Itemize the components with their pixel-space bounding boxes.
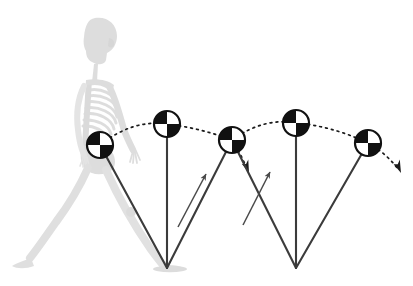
velocity-vector-2 <box>243 172 270 225</box>
com-marker-4 <box>283 110 309 136</box>
ground-shadow-1 <box>153 266 187 272</box>
com-marker-5 <box>355 130 381 156</box>
com-marker-1 <box>87 132 113 158</box>
gait-diagram-canvas <box>0 0 413 286</box>
com-marker-3-quadrant-ul <box>219 127 232 140</box>
front-leg <box>106 170 165 267</box>
com-marker-4-quadrant-lr <box>296 123 309 136</box>
com-marker-5-quadrant-lr <box>368 143 381 156</box>
pendulum-leg-3 <box>167 140 232 268</box>
rear-leg <box>30 168 88 258</box>
com-marker-1-quadrant-ul <box>87 132 100 145</box>
pendulum-leg-4 <box>232 140 296 268</box>
rear-foot <box>12 258 34 268</box>
gait-diagram-figure: Inverted pendulum model of human walking… <box>0 0 413 286</box>
com-marker-2-quadrant-ul <box>154 111 167 124</box>
com-marker-2 <box>154 111 180 137</box>
com-trajectory-path <box>100 122 398 169</box>
com-marker-3 <box>219 127 245 153</box>
com-marker-5-quadrant-ul <box>355 130 368 143</box>
trajectory-arrowheads <box>240 158 403 173</box>
com-marker-3-quadrant-lr <box>232 140 245 153</box>
com-marker-4-quadrant-ul <box>283 110 296 123</box>
com-marker-2-quadrant-lr <box>167 124 180 137</box>
pendulum-leg-6 <box>296 143 368 268</box>
arrowhead-end-icon <box>392 158 404 173</box>
